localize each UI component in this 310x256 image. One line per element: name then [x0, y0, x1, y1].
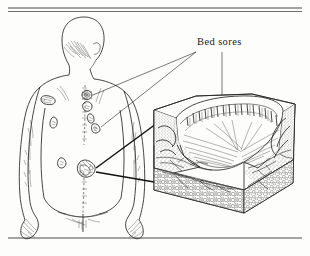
patient-body-figure: [19, 17, 145, 239]
sore-lumbar-left: [58, 158, 66, 168]
tissue-cross-section-block: [150, 94, 298, 217]
sore-sacral-cluster: [77, 160, 95, 177]
sore-left-scapula: [41, 96, 55, 105]
left-hand: [21, 202, 39, 239]
hair-hatching: [64, 41, 91, 59]
sore-left-flank: [50, 117, 57, 128]
bed-sore-lesions: [41, 90, 100, 178]
spine-midline: [83, 85, 85, 232]
sore-mid-spine: [83, 102, 92, 112]
right-hand: [126, 203, 144, 239]
figure-root: Bed sores: [0, 0, 310, 256]
sore-right-lower: [92, 124, 101, 133]
sore-right-upper: [88, 114, 95, 123]
bed-sores-label: Bed sores: [197, 37, 242, 48]
scapula-shading: [57, 86, 104, 104]
illustration-canvas: [0, 0, 310, 256]
